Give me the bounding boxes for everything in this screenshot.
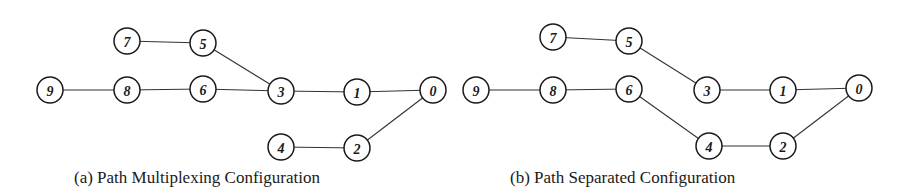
- node-6: 6: [616, 76, 642, 102]
- node-label: 9: [473, 84, 480, 99]
- panel-path-separated: 9867531042: [463, 24, 872, 159]
- node-label: 7: [124, 35, 132, 50]
- node-label: 6: [626, 83, 633, 98]
- node-label: 6: [200, 83, 207, 98]
- node-label: 0: [856, 82, 863, 97]
- node-3: 3: [694, 77, 720, 103]
- node-label: 8: [550, 84, 557, 99]
- node-label: 4: [277, 141, 285, 156]
- node-1: 1: [770, 77, 796, 103]
- node-6: 6: [190, 76, 216, 102]
- node-label: 2: [779, 140, 787, 155]
- node-0: 0: [420, 77, 446, 103]
- node-3: 3: [268, 78, 294, 104]
- node-label: 2: [353, 142, 361, 157]
- node-2: 2: [770, 133, 796, 159]
- node-label: 5: [626, 35, 633, 50]
- node-label: 8: [124, 84, 131, 99]
- caption-path-multiplexing: (a) Path Multiplexing Configuration: [74, 168, 320, 188]
- node-4: 4: [268, 134, 294, 160]
- node-5: 5: [190, 30, 216, 56]
- node-0: 0: [846, 75, 872, 101]
- node-8: 8: [114, 77, 140, 103]
- caption-path-separated: (b) Path Separated Configuration: [510, 168, 735, 188]
- panel-path-multiplexing: 9867531042: [37, 28, 446, 161]
- node-1: 1: [344, 79, 370, 105]
- node-9: 9: [37, 77, 63, 103]
- node-label: 1: [354, 86, 361, 101]
- network-diagram: 9867531042 9867531042: [0, 0, 916, 194]
- node-7: 7: [540, 24, 566, 50]
- nodes: 9867531042: [463, 24, 872, 159]
- node-2: 2: [344, 135, 370, 161]
- edges: [50, 41, 433, 148]
- edges: [476, 37, 859, 146]
- node-label: 1: [780, 84, 787, 99]
- node-label: 5: [200, 37, 207, 52]
- node-9: 9: [463, 77, 489, 103]
- node-7: 7: [114, 28, 140, 54]
- node-label: 9: [47, 84, 54, 99]
- node-5: 5: [616, 28, 642, 54]
- node-8: 8: [540, 77, 566, 103]
- node-label: 7: [550, 31, 558, 46]
- node-label: 4: [705, 140, 713, 155]
- node-label: 0: [430, 84, 437, 99]
- node-label: 3: [277, 85, 285, 100]
- node-4: 4: [696, 133, 722, 159]
- node-label: 3: [703, 84, 711, 99]
- nodes: 9867531042: [37, 28, 446, 161]
